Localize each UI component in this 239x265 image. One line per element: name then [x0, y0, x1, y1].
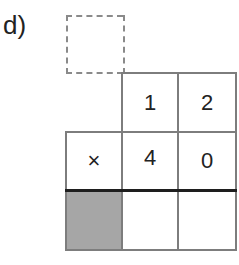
result-shaded-cell [65, 189, 123, 251]
multiplicand-tens-cell: 1 [121, 72, 179, 133]
multiplicand-ones-cell: 2 [177, 72, 237, 133]
carry-box-border-bottom [66, 72, 123, 74]
sum-rule-line [65, 189, 237, 192]
exercise-label: d) [3, 12, 26, 38]
result-ones-input[interactable] [177, 189, 237, 251]
multiply-sign-cell: × [65, 131, 123, 191]
carry-box-border [66, 15, 123, 74]
multiplier-ones-cell: 0 [177, 131, 237, 191]
carry-box-border-right [123, 15, 125, 74]
result-tens-input[interactable] [121, 189, 179, 251]
multiplier-tens-cell: 4 [121, 131, 179, 191]
